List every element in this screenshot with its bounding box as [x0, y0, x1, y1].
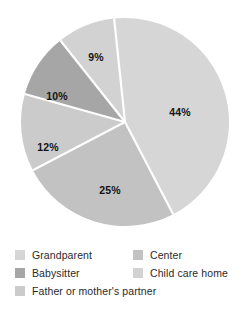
legend-item-label: Center [150, 250, 182, 261]
legend-item[interactable]: Father or mother's partner [15, 282, 145, 300]
legend-column-right: CenterChild care home [133, 246, 247, 282]
legend-item[interactable]: Babysitter [15, 264, 145, 282]
pie-chart-figure: 44%25%12%10%9% GrandparentBabysitterFath… [0, 0, 247, 317]
pie-slice-value-label: 12% [37, 142, 58, 153]
pie-slice-value-label: 25% [99, 185, 120, 196]
pie-slice-value-label: 9% [88, 52, 103, 63]
legend-color-swatch [133, 250, 143, 260]
legend-item-label: Child care home [150, 268, 228, 279]
legend-color-swatch [15, 250, 25, 260]
legend-item[interactable]: Center [133, 246, 247, 264]
pie-chart-svg [0, 0, 247, 240]
legend-item[interactable]: Grandparent [15, 246, 145, 264]
pie-chart-plot-area: 44%25%12%10%9% [0, 0, 247, 240]
legend-item[interactable]: Child care home [133, 264, 247, 282]
pie-slice-value-label: 44% [169, 107, 190, 118]
legend-item-label: Grandparent [32, 250, 92, 261]
legend-color-swatch [15, 268, 25, 278]
legend-item-label: Father or mother's partner [32, 286, 156, 297]
legend-color-swatch [15, 286, 25, 296]
pie-slice-value-label: 10% [46, 91, 67, 102]
legend: GrandparentBabysitterFather or mother's … [0, 246, 247, 317]
legend-item-label: Babysitter [32, 268, 80, 279]
legend-color-swatch [133, 268, 143, 278]
legend-column-left: GrandparentBabysitterFather or mother's … [15, 246, 145, 300]
